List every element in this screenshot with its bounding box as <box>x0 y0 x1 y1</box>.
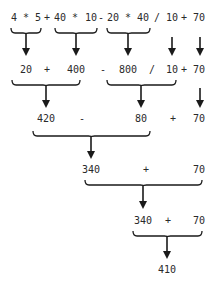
step-1-expression-token: 10 <box>166 13 178 23</box>
step-1-expression-token: - <box>98 13 104 23</box>
step-4-after-subtraction-token: 340 <box>82 165 100 175</box>
down-arrow-icon <box>42 86 50 108</box>
step-4-after-subtraction-token: 70 <box>193 165 205 175</box>
step-3-after-add-and-divide-token: 70 <box>193 114 205 124</box>
step-3-after-add-and-divide-token: 420 <box>37 114 55 124</box>
down-arrow-icon <box>72 33 80 56</box>
step-1-expression-token: 5 <box>35 13 41 23</box>
step-2-after-multiplication-token: 400 <box>67 65 85 75</box>
down-arrow-icon <box>137 86 145 108</box>
step-4-after-subtraction-token: + <box>143 165 149 175</box>
step-1-expression-token: + <box>181 13 187 23</box>
step-3-after-add-and-divide-token: + <box>170 114 176 124</box>
grouping-brace <box>107 80 176 86</box>
step-2-after-multiplication-token: 800 <box>119 65 137 75</box>
step-1-expression-token: 4 <box>11 13 17 23</box>
grouping-brace <box>33 131 150 137</box>
step-1-expression-token: + <box>44 13 50 23</box>
step-2-after-multiplication-token: 20 <box>20 65 32 75</box>
down-arrow-icon <box>163 236 171 259</box>
step-1-expression-token: * <box>125 13 131 23</box>
step-2-after-multiplication-token: 10 <box>166 65 178 75</box>
step-1-expression-token: / <box>154 13 160 23</box>
grouping-brace <box>85 180 202 186</box>
expression-evaluation-diagram: 4*5+40*10-20*40/10+7020+400-800/10+70420… <box>0 0 215 292</box>
diagram-connectors <box>0 0 215 292</box>
step-2-after-multiplication-token: + <box>181 65 187 75</box>
step-5-final-addition-token: 340 <box>134 216 152 226</box>
down-arrow-icon <box>196 88 204 108</box>
step-2-after-multiplication-token: + <box>44 65 50 75</box>
step-1-expression-token: * <box>72 13 78 23</box>
step-1-expression-token: 10 <box>85 13 97 23</box>
step-2-after-multiplication-token: 70 <box>193 65 205 75</box>
down-arrow-icon <box>139 186 147 209</box>
step-2-after-multiplication-token: - <box>100 65 106 75</box>
down-arrow-icon <box>196 37 204 56</box>
step-3-after-add-and-divide-token: - <box>79 114 85 124</box>
step-1-expression-token: 20 <box>107 13 119 23</box>
down-arrow-icon <box>22 33 30 56</box>
down-arrow-icon <box>124 33 132 56</box>
step-5-final-addition-token: 70 <box>193 216 205 226</box>
step-1-expression-token: 40 <box>54 13 66 23</box>
step-2-after-multiplication-token: / <box>149 65 155 75</box>
step-1-expression-token: 70 <box>193 13 205 23</box>
down-arrow-icon <box>87 137 95 159</box>
step-1-expression-token: 40 <box>137 13 149 23</box>
step-3-after-add-and-divide-token: 80 <box>135 114 147 124</box>
step-6-result-token: 410 <box>158 265 176 275</box>
down-arrow-icon <box>168 37 176 56</box>
step-1-expression-token: * <box>23 13 29 23</box>
grouping-brace <box>12 80 80 86</box>
step-5-final-addition-token: + <box>165 216 171 226</box>
